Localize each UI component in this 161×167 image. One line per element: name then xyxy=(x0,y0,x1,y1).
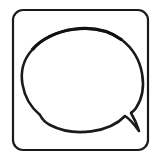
speech-bubble-icon xyxy=(0,0,161,167)
speech-bubble-icon-tile xyxy=(12,9,149,150)
